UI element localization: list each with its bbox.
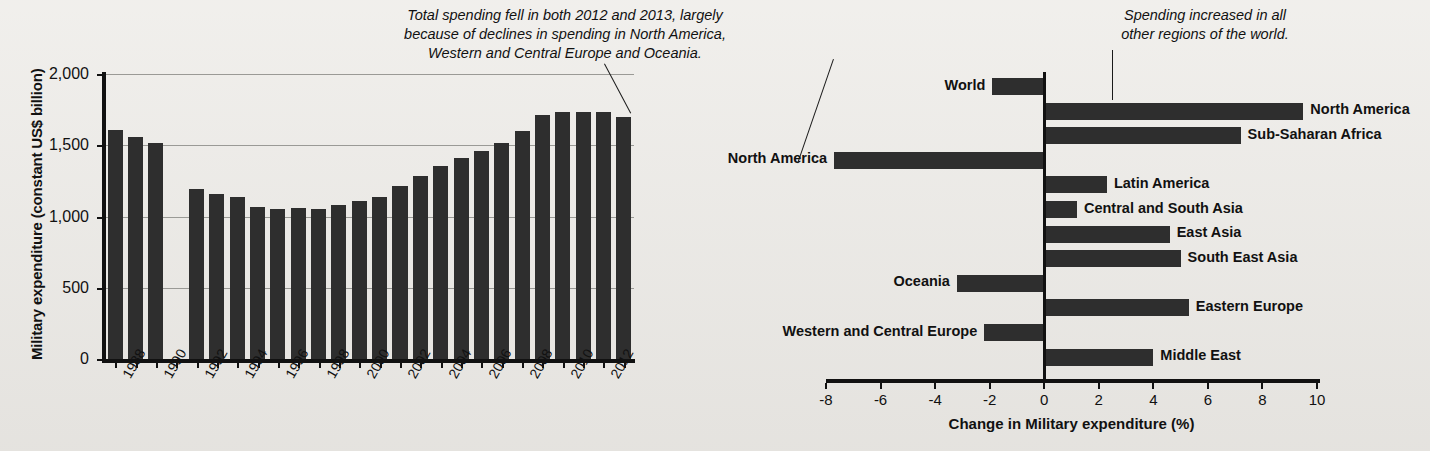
x-axis-tick-label: 6 (1204, 391, 1212, 408)
annotation-total-spending-fell: Total spending fell in both 2012 and 201… (395, 6, 735, 63)
x-axis-tick-label: 0 (1040, 391, 1048, 408)
x-axis-tick-label: 1996 (282, 346, 311, 381)
zero-axis-line (1043, 72, 1046, 379)
x-axis-tick (522, 363, 524, 368)
x-axis-tick (603, 363, 605, 368)
x-axis-tick (989, 383, 991, 389)
y-axis-tick-label: 1,000 (19, 208, 89, 226)
bar-2004 (433, 166, 448, 359)
x-axis-tick-label: 1994 (241, 346, 270, 381)
bar-sub-saharan-africa-positive (1044, 127, 1240, 144)
bar-east-asia-positive (1044, 226, 1169, 243)
right-chart-plot-area: WorldNorth AmericaSub-Saharan AfricaNort… (700, 0, 1430, 451)
x-axis-tick (481, 363, 483, 368)
x-axis-tick-label: 1998 (323, 346, 352, 381)
bar-label-central-and-south-asia: Central and South Asia (1084, 200, 1243, 216)
bar-1988 (108, 130, 123, 359)
bar-2006 (474, 151, 489, 359)
gridline (105, 74, 634, 75)
change-in-military-expenditure-chart: WorldNorth AmericaSub-Saharan AfricaNort… (700, 0, 1430, 451)
bar-western-and-central-europe-negative (984, 324, 1044, 341)
leader-line-right-note (1112, 50, 1113, 100)
x-axis-tick-label: 2012 (607, 346, 636, 381)
x-axis-tick-label: 2004 (445, 346, 474, 381)
x-axis-tick (880, 383, 882, 389)
x-axis-tick (359, 363, 361, 368)
x-axis-tick-label: -2 (983, 391, 996, 408)
x-axis-tick-label: 4 (1149, 391, 1157, 408)
bar-middle-east-positive (1044, 349, 1153, 366)
bar-north-america-negative (834, 152, 1044, 169)
x-axis-tick (237, 363, 239, 368)
bar-2010 (555, 112, 570, 359)
bar-label-east-asia: East Asia (1177, 224, 1242, 240)
annotation-spending-increased: Spending increased in all other regions … (1055, 6, 1355, 44)
bar-2002 (392, 186, 407, 359)
bar-1998 (311, 209, 326, 359)
bar-1989 (128, 137, 143, 359)
y-axis-tick-label: 0 (19, 350, 89, 368)
military-expenditure-timeseries-chart: Military expenditure (constant US$ billi… (0, 0, 700, 451)
figure-canvas: Military expenditure (constant US$ billi… (0, 0, 1430, 451)
bar-label-south-east-asia: South East Asia (1188, 249, 1298, 265)
x-axis-tick (400, 363, 402, 368)
bar-1994 (230, 197, 245, 359)
x-axis-tick-label: -8 (819, 391, 832, 408)
x-axis-tick-label: 2008 (526, 346, 555, 381)
bar-central-and-south-asia-positive (1044, 201, 1077, 218)
x-axis-tick (1316, 383, 1318, 389)
x-axis-tick-label: 2006 (485, 346, 514, 381)
x-axis-tick (1152, 383, 1154, 389)
bar-1997 (291, 208, 306, 359)
x-axis-tick (1043, 383, 1045, 389)
bar-label-western-and-central-europe: Western and Central Europe (783, 323, 978, 339)
x-axis-tick-label: -6 (874, 391, 887, 408)
bar-eastern-europe-positive (1044, 299, 1189, 316)
x-axis-tick (156, 363, 158, 368)
bar-2013 (616, 117, 631, 359)
x-axis-line (826, 379, 1320, 383)
bar-latin-america-positive (1044, 176, 1107, 193)
y-axis-tick-label: 2,000 (19, 65, 89, 83)
bar-2011 (576, 112, 591, 359)
bar-2001 (372, 197, 387, 359)
bar-1990 (148, 143, 163, 359)
x-axis-tick (319, 363, 321, 368)
bar-oceania-negative (957, 275, 1044, 292)
x-axis-tick (825, 383, 827, 389)
bar-south-east-asia-positive (1044, 250, 1180, 267)
x-axis-tick-label: -4 (928, 391, 941, 408)
bar-label-oceania: Oceania (894, 273, 950, 289)
x-axis-tick (115, 363, 117, 368)
bar-1993 (209, 194, 224, 359)
x-axis-tick (278, 363, 280, 368)
right-chart-x-axis-title: Change in Military expenditure (%) (949, 415, 1195, 432)
bar-north-america-positive (1044, 103, 1303, 120)
bar-2012 (596, 112, 611, 359)
bar-label-latin-america: Latin America (1114, 175, 1209, 191)
bar-2009 (535, 115, 550, 359)
bar-label-middle-east: Middle East (1160, 347, 1241, 363)
bar-world-negative (992, 78, 1044, 95)
bar-2003 (413, 176, 428, 359)
left-chart-plot-area: 05001,0001,5002,000198819901992199419961… (105, 74, 634, 359)
bar-label-eastern-europe: Eastern Europe (1196, 298, 1303, 314)
bar-label-north-america: North America (1310, 101, 1409, 117)
x-axis-tick (934, 383, 936, 389)
x-axis-tick-label: 8 (1258, 391, 1266, 408)
x-axis-tick-label: 2002 (404, 346, 433, 381)
x-axis-tick-label: 10 (1309, 391, 1326, 408)
x-axis-tick (197, 363, 199, 368)
bar-2007 (494, 143, 509, 359)
x-axis-tick (441, 363, 443, 368)
bar-2005 (454, 158, 469, 359)
bar-1995 (250, 207, 265, 359)
x-axis-tick-label: 1990 (160, 346, 189, 381)
y-axis-tick-label: 500 (19, 279, 89, 297)
x-axis-tick-label: 2010 (567, 346, 596, 381)
x-axis-tick-label: 1988 (119, 346, 148, 381)
bar-label-world: World (945, 77, 986, 93)
bar-2008 (515, 131, 530, 359)
x-axis-tick (563, 363, 565, 368)
x-axis-tick-label: 1992 (201, 346, 230, 381)
